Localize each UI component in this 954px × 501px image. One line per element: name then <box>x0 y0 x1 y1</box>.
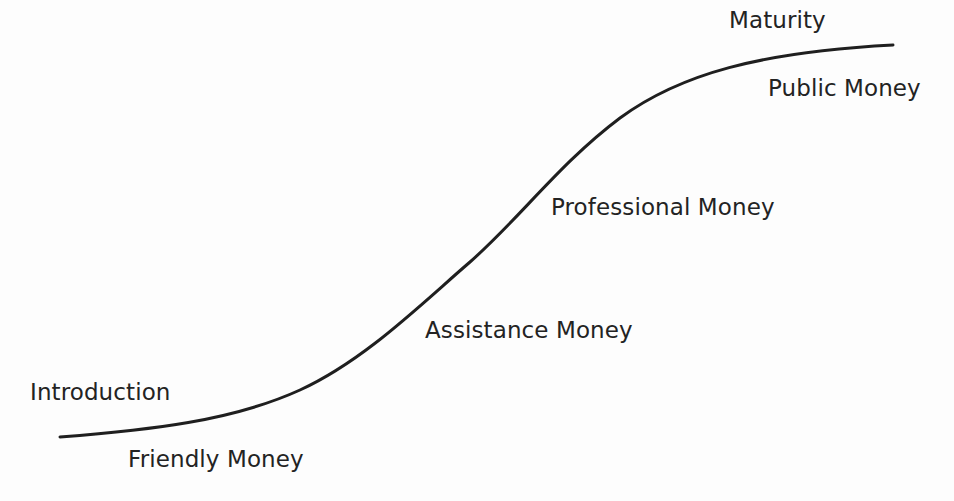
label-introduction: Introduction <box>30 381 170 404</box>
diagram-canvas: Introduction Friendly Money Assistance M… <box>0 0 954 501</box>
label-public-money: Public Money <box>768 77 921 100</box>
label-professional-money: Professional Money <box>551 196 775 219</box>
s-curve-path <box>60 45 893 437</box>
label-assistance-money: Assistance Money <box>425 319 633 342</box>
label-friendly-money: Friendly Money <box>128 448 304 471</box>
label-maturity: Maturity <box>729 9 826 32</box>
